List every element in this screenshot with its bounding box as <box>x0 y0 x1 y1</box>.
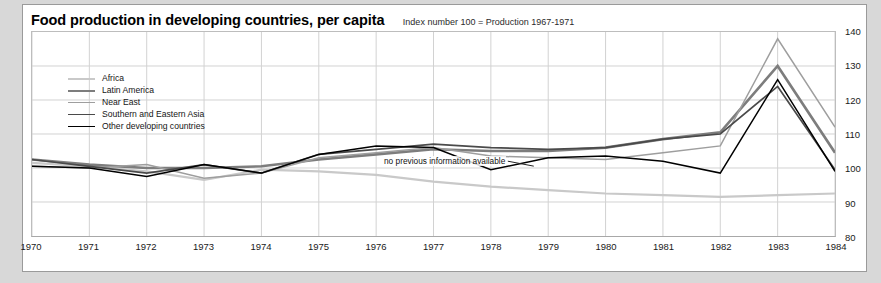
legend-swatch-icon <box>68 114 95 115</box>
legend-item-label: Other developing countries <box>102 121 205 132</box>
legend-item-label: Near East <box>102 97 140 108</box>
chart-card: Food production in developing countries,… <box>22 4 867 272</box>
x-axis-tick-label: 1984 <box>825 241 846 252</box>
legend-item: Africa <box>68 72 298 83</box>
x-axis-tick-label: 1983 <box>768 241 789 252</box>
plot-area: no previous information available Africa… <box>31 31 836 237</box>
y-axis-tick-label: 110 <box>845 129 860 140</box>
x-axis-tick-label: 1979 <box>538 241 559 252</box>
figure-canvas: Food production in developing countries,… <box>0 0 881 283</box>
x-axis-tick-label: 1977 <box>423 241 444 252</box>
x-axis-tick-label: 1976 <box>365 241 386 252</box>
x-axis-tick-label: 1970 <box>20 241 41 252</box>
y-axis-tick-label: 130 <box>845 60 861 71</box>
x-axis-tick-label: 1981 <box>653 241 674 252</box>
y-axis-tick-label: 80 <box>845 232 856 243</box>
legend-item: Latin America <box>68 84 298 95</box>
chart-subtitle: Index number 100 = Production 1967-1971 <box>403 17 574 27</box>
y-axis-tick-label: 100 <box>845 163 861 174</box>
x-axis-tick-label: 1974 <box>250 241 271 252</box>
line-chart-svg <box>32 32 835 236</box>
legend-item: Near East <box>68 96 298 107</box>
x-axis-tick-label: 1972 <box>135 241 156 252</box>
legend-swatch-icon <box>68 102 95 103</box>
legend-item: Other developing countries <box>68 120 298 131</box>
x-axis-tick-label: 1975 <box>308 241 329 252</box>
x-axis-tick-label: 1978 <box>480 241 501 252</box>
legend-item: Southern and Eastern Asia <box>68 108 298 119</box>
legend-swatch-icon <box>68 78 95 80</box>
chart-legend: AfricaLatin AmericaNear EastSouthern and… <box>68 72 298 132</box>
y-axis-tick-label: 90 <box>845 197 856 208</box>
legend-swatch-icon <box>68 126 95 127</box>
legend-swatch-icon <box>68 90 95 92</box>
x-axis-labels: 1970197119721973197419751976197719781979… <box>31 241 836 261</box>
x-axis-tick-label: 1971 <box>78 241 99 252</box>
title-row: Food production in developing countries,… <box>31 11 858 33</box>
x-axis-tick-label: 1982 <box>710 241 731 252</box>
page-title: Food production in developing countries,… <box>31 12 384 28</box>
legend-item-label: Latin America <box>102 85 154 96</box>
annotation-no-previous-information: no previous information available <box>383 156 506 166</box>
legend-item-label: Africa <box>102 73 124 84</box>
x-axis-tick-label: 1973 <box>193 241 214 252</box>
y-axis-tick-label: 120 <box>845 94 861 105</box>
y-axis-labels: 8090100110120130140 <box>840 31 868 237</box>
x-axis-tick-label: 1980 <box>595 241 616 252</box>
legend-item-label: Southern and Eastern Asia <box>102 109 204 120</box>
y-axis-tick-label: 140 <box>845 26 861 37</box>
